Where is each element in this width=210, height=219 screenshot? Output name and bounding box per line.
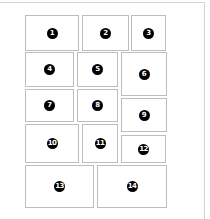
layout-box-4: 4 bbox=[25, 52, 74, 87]
number-badge: 5 bbox=[92, 64, 103, 75]
layout-box-2: 2 bbox=[82, 15, 129, 51]
layout-box-9: 9 bbox=[121, 98, 167, 132]
frame-right-border bbox=[204, 2, 205, 219]
layout-box-14: 14 bbox=[97, 165, 167, 208]
number-badge: 8 bbox=[92, 100, 103, 111]
number-badge: 9 bbox=[139, 110, 150, 121]
layout-box-5: 5 bbox=[77, 52, 118, 87]
number-badge: 2 bbox=[100, 28, 111, 39]
layout-box-1: 1 bbox=[25, 15, 79, 51]
number-badge: 3 bbox=[143, 28, 154, 39]
layout-box-8: 8 bbox=[77, 89, 118, 122]
layout-box-3: 3 bbox=[131, 15, 166, 51]
number-badge: 11 bbox=[95, 138, 106, 149]
frame-top-border bbox=[0, 2, 205, 3]
number-badge: 1 bbox=[47, 28, 58, 39]
layout-box-12: 12 bbox=[121, 135, 166, 163]
layout-box-10: 10 bbox=[25, 124, 79, 163]
layout-box-7: 7 bbox=[25, 89, 74, 122]
layout-box-11: 11 bbox=[82, 124, 118, 163]
number-badge: 13 bbox=[54, 181, 65, 192]
layout-box-13: 13 bbox=[25, 165, 94, 208]
number-badge: 14 bbox=[127, 181, 138, 192]
number-badge: 12 bbox=[138, 144, 149, 155]
number-badge: 7 bbox=[44, 100, 55, 111]
number-badge: 6 bbox=[139, 69, 150, 80]
number-badge: 4 bbox=[44, 64, 55, 75]
layout-box-6: 6 bbox=[121, 52, 167, 96]
number-badge: 10 bbox=[47, 138, 58, 149]
